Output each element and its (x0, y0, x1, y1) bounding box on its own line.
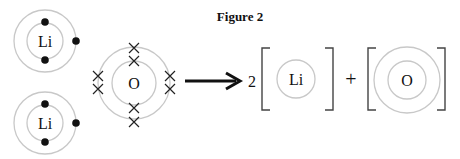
electron-dot (41, 18, 49, 26)
coefficient: 2 (248, 73, 256, 90)
lithium-atom-1: Li (14, 10, 80, 72)
ionic-bonding-diagram: Figure 2 Li Li O (0, 0, 460, 159)
electron-dot (41, 100, 49, 108)
left-bracket (262, 48, 270, 110)
right-bracket (437, 48, 445, 110)
atom-symbol: O (128, 75, 140, 92)
reaction-arrow-icon (185, 73, 240, 89)
figure-title: Figure 2 (217, 9, 263, 24)
left-bracket (368, 48, 376, 110)
electron-dot (41, 138, 49, 146)
lithium-ion: Li (262, 48, 333, 110)
atom-symbol: Li (38, 115, 53, 132)
oxygen-atom: O (93, 43, 175, 127)
right-bracket (325, 48, 333, 110)
plus-sign: + (345, 68, 356, 90)
cross-icon (129, 43, 139, 53)
atom-symbol: Li (38, 33, 53, 50)
electron-dot (72, 119, 80, 127)
lithium-atom-2: Li (14, 92, 80, 154)
electron-dot (41, 56, 49, 64)
electron-dot (72, 37, 80, 45)
ion-symbol: O (401, 72, 413, 89)
oxide-ion: O (368, 47, 445, 113)
ion-symbol: Li (289, 71, 304, 88)
